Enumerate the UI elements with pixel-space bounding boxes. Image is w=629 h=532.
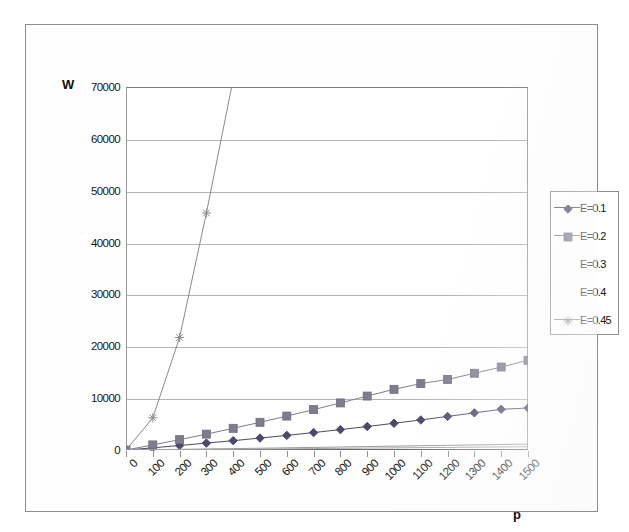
data-point-diamond (417, 416, 425, 424)
y-axis-tick-label: 20000 (91, 340, 120, 352)
data-point-diamond (309, 428, 317, 436)
x-axis-tick-label: 900 (360, 457, 381, 478)
x-axis-tick-label: 1200 (436, 457, 461, 482)
legend-label: E=0.1 (580, 202, 606, 214)
x-axis-tick-label: 500 (252, 457, 273, 478)
x-axis-tick-label: 700 (306, 457, 327, 478)
data-point-star (175, 333, 184, 342)
x-axis-tick-label: 1500 (516, 457, 541, 482)
legend-label: E=0.3 (580, 258, 606, 270)
series-group (121, 75, 532, 455)
figure-frame: W 700006000050000400003000020000100000 0… (25, 24, 598, 512)
legend-label: E=0.2 (580, 230, 606, 242)
x-axis-tick-label: 1000 (382, 457, 407, 482)
x-axis-title: p (513, 507, 521, 522)
y-axis-tick-label: 10000 (91, 392, 120, 404)
data-point-square (229, 424, 237, 432)
data-point-diamond (470, 409, 478, 417)
x-axis-tick-label: 800 (333, 457, 354, 478)
x-axis-tick-label: 0 (127, 457, 140, 470)
y-axis-tick-label: 70000 (91, 81, 120, 93)
y-axis-tick-label: 30000 (91, 288, 120, 300)
data-series-layer (126, 87, 528, 450)
data-point-square (176, 436, 184, 444)
x-axis-tick-label: 600 (279, 457, 300, 478)
series-line-E01 (126, 408, 528, 450)
data-point-diamond (524, 404, 532, 412)
data-point-diamond (256, 434, 264, 442)
x-axis-labels: 0100200300400500600700800900100011001200… (126, 457, 528, 507)
data-point-star (202, 208, 211, 217)
data-point-square (390, 385, 398, 393)
data-point-square (202, 430, 210, 438)
legend-item-E045[interactable]: E=0.45 (551, 306, 618, 334)
data-point-diamond (229, 436, 237, 444)
legend-label: E=0.45 (580, 314, 611, 326)
data-point-diamond (283, 431, 291, 439)
legend-item-E04[interactable]: E=0.4 (551, 278, 618, 306)
data-point-diamond (363, 422, 371, 430)
data-point-square (336, 399, 344, 407)
x-axis-tick-label: 1100 (410, 457, 435, 482)
x-axis-tick-label: 200 (172, 457, 193, 478)
legend-marker-star-icon (554, 314, 580, 326)
data-point-diamond (497, 405, 505, 413)
legend-marker-diamond-icon (554, 202, 580, 214)
data-point-square (497, 363, 505, 371)
data-point-square (256, 418, 264, 426)
data-point-square (524, 356, 532, 364)
y-axis-tick-label: 40000 (91, 237, 120, 249)
y-axis-tick-label: 50000 (91, 185, 120, 197)
plot-wrapper (126, 87, 528, 450)
y-axis-tick-label: 0 (114, 444, 120, 456)
data-point-square (470, 369, 478, 377)
legend-item-E01[interactable]: E=0.1 (551, 194, 618, 222)
x-axis-tick-label: 1400 (490, 457, 515, 482)
data-point-square (310, 406, 318, 414)
data-point-diamond (390, 419, 398, 427)
legend-item-E02[interactable]: E=0.2 (551, 222, 618, 250)
data-point-square (283, 412, 291, 420)
data-point-star (229, 75, 238, 84)
data-point-square (417, 380, 425, 388)
data-point-diamond (336, 425, 344, 433)
data-point-star (563, 316, 572, 325)
data-point-square (149, 441, 157, 449)
data-point-square (564, 233, 572, 241)
x-axis-tick-label: 1300 (463, 457, 488, 482)
data-point-square (444, 375, 452, 383)
x-axis-tick-label: 100 (145, 457, 166, 478)
data-point-diamond (443, 412, 451, 420)
data-point-diamond (202, 439, 210, 447)
legend-label: E=0.4 (580, 286, 606, 298)
y-axis-ticks: 700006000050000400003000020000100000 (56, 87, 120, 450)
x-axis-tick-label: 400 (226, 457, 247, 478)
legend-marker-square-icon (554, 230, 580, 242)
x-axis-tickmark (528, 451, 529, 457)
y-axis-tick-label: 60000 (91, 133, 120, 145)
series-line-E045 (126, 79, 233, 450)
data-point-star (148, 413, 157, 422)
legend: E=0.1E=0.2E=0.3E=0.4E=0.45 (550, 191, 619, 335)
legend-item-E03[interactable]: E=0.3 (551, 250, 618, 278)
x-axis-tick-label: 300 (199, 457, 220, 478)
data-point-diamond (564, 205, 572, 213)
series-line-E02 (126, 360, 528, 450)
data-point-square (363, 392, 371, 400)
